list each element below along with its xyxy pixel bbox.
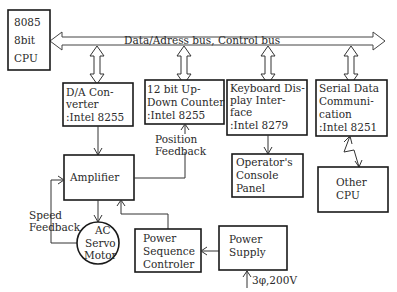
svg-text:Power: Power [143, 232, 177, 244]
svg-text:Panel: Panel [236, 182, 266, 194]
svg-text:Controler: Controler [143, 258, 195, 270]
svg-text:8bit: 8bit [14, 34, 36, 46]
arrow-amplifier-to-motor [94, 200, 102, 222]
svg-text:Operator's: Operator's [236, 156, 293, 168]
bidirectional-arrow-icon [90, 46, 104, 84]
keyboard-display-interface-block: Keyboard Dis- play Inter- face :Intel 82… [227, 80, 307, 135]
operator-console-block: Operator's Console Panel [232, 154, 303, 197]
position-feedback-path: Position Feedback [134, 124, 207, 178]
svg-text:Servo: Servo [85, 237, 116, 249]
power-input-label: 3φ,200V [252, 274, 297, 286]
svg-text:Other: Other [336, 176, 368, 188]
serial-link-zigzag [344, 136, 362, 167]
arrow-da-to-amplifier [94, 126, 102, 155]
power-supply-block: Power Supply [219, 226, 287, 270]
power-sequence-controller-block: Power Sequence Controler [135, 229, 201, 272]
svg-text:Sequence: Sequence [143, 245, 195, 257]
bus-connectors [90, 46, 358, 84]
bidirectional-arrow-icon [261, 46, 275, 84]
other-cpu-block: Other CPU [318, 167, 388, 212]
svg-text:D/A Con-: D/A Con- [66, 86, 114, 98]
svg-text::Intel 8251: :Intel 8251 [319, 121, 377, 133]
amplifier-block: Amplifier [64, 155, 134, 200]
arrow-power-supply-to-sequence [201, 247, 219, 255]
svg-text::Intel 8255: :Intel 8255 [147, 109, 205, 121]
power-input: 3φ,200V [243, 271, 297, 288]
svg-text:Speed: Speed [29, 209, 62, 221]
svg-text:8085: 8085 [14, 16, 41, 28]
svg-text:Keyboard Dis-: Keyboard Dis- [230, 82, 305, 94]
svg-text::Intel 8255: :Intel 8255 [66, 111, 124, 123]
svg-text:Power: Power [229, 233, 263, 245]
cpu-block: 8085 8bit CPU [8, 10, 50, 70]
svg-text:verter: verter [65, 98, 100, 110]
svg-text:Feedback: Feedback [155, 145, 207, 157]
svg-text:Supply: Supply [229, 246, 266, 258]
bus-label: Data/Adress bus, Control bus [124, 34, 280, 46]
svg-text::Intel 8279: :Intel 8279 [230, 119, 288, 131]
serial-communication-block: Serial Data Communi- cation :Intel 8251 [316, 80, 387, 136]
bidirectional-arrow-icon [177, 46, 191, 84]
bidirectional-arrow-icon [344, 46, 358, 84]
svg-text:cation: cation [319, 108, 352, 120]
up-down-counter-block: 12 bit Up- Down Counter :Intel 8255 [145, 80, 225, 124]
svg-text:Position: Position [155, 133, 198, 145]
arrow-power-sequence-to-amplifier [117, 200, 168, 229]
svg-text:Amplifier: Amplifier [69, 171, 120, 183]
svg-text:Feedback: Feedback [29, 221, 81, 233]
ac-servo-motor: AC Servo Motor [77, 222, 119, 264]
svg-text:Console: Console [236, 169, 278, 181]
svg-text:Communi-: Communi- [319, 95, 374, 107]
svg-text:Down Counter: Down Counter [147, 96, 225, 108]
svg-text:face: face [230, 106, 252, 118]
svg-text:Motor: Motor [84, 249, 118, 261]
system-bus: Data/Adress bus, Control bus [50, 32, 385, 50]
arrow-keyboard-to-console [264, 135, 272, 154]
svg-text:12 bit Up-: 12 bit Up- [147, 83, 201, 95]
svg-text:CPU: CPU [14, 52, 38, 64]
svg-text:AC: AC [94, 224, 111, 236]
svg-text:CPU: CPU [336, 189, 360, 201]
da-converter-block: D/A Con- verter :Intel 8255 [63, 83, 133, 126]
svg-text:play Inter-: play Inter- [230, 94, 286, 106]
block-diagram: Data/Adress bus, Control bus 8085 8bit C… [0, 0, 397, 292]
svg-text:Serial Data: Serial Data [319, 82, 379, 94]
